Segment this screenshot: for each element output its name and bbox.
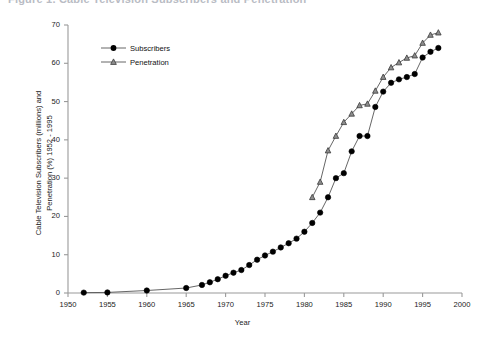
subscribers-point xyxy=(81,290,86,295)
subscribers-point xyxy=(357,133,362,138)
subscribers-point xyxy=(184,285,189,290)
subscribers-point xyxy=(278,245,283,250)
y-tick-label: 10 xyxy=(0,250,60,259)
legend-marker-subscribers xyxy=(111,45,117,51)
subscribers-point xyxy=(254,257,259,262)
x-axis-ticks xyxy=(68,293,462,297)
penetration-point xyxy=(396,60,402,65)
x-tick-label: 1995 xyxy=(407,300,439,309)
subscribers-point xyxy=(144,288,149,293)
subscribers-point xyxy=(215,277,220,282)
y-axis-title-line2: Penetration (%) 1952 - 1995 xyxy=(45,58,56,268)
legend-markers xyxy=(101,45,126,64)
subscribers-point xyxy=(412,71,417,76)
subscribers-point xyxy=(286,241,291,246)
subscribers-line xyxy=(84,48,439,293)
penetration-point xyxy=(365,101,371,106)
penetration-point xyxy=(317,179,323,184)
figure-container: Figure 1. Cable Television Subscribers a… xyxy=(0,0,485,340)
x-tick-label: 1965 xyxy=(170,300,202,309)
x-tick-label: 1980 xyxy=(288,300,320,309)
subscribers-point xyxy=(294,236,299,241)
y-tick-label: 20 xyxy=(0,211,60,220)
y-axis-title-line1: Cable Television Subscribers (millions) … xyxy=(34,58,45,268)
penetration-point xyxy=(310,194,316,199)
series-subscribers xyxy=(81,45,441,295)
subscribers-point xyxy=(349,149,354,154)
x-tick-label: 1955 xyxy=(91,300,123,309)
subscribers-point xyxy=(428,49,433,54)
x-tick-label: 1975 xyxy=(249,300,281,309)
subscribers-point xyxy=(365,133,370,138)
subscribers-point xyxy=(207,280,212,285)
x-tick-label: 1950 xyxy=(52,300,84,309)
x-tick-label: 2000 xyxy=(446,300,478,309)
penetration-point xyxy=(373,88,379,93)
subscribers-point xyxy=(270,249,275,254)
legend-label-penetration: Penetration xyxy=(130,58,169,67)
subscribers-point xyxy=(310,220,315,225)
x-tick-label: 1970 xyxy=(210,300,242,309)
subscribers-point xyxy=(333,175,338,180)
y-tick-label: 50 xyxy=(0,97,60,106)
penetration-point xyxy=(412,53,418,58)
subscribers-point xyxy=(373,104,378,109)
y-tick-label: 30 xyxy=(0,173,60,182)
subscribers-point xyxy=(381,89,386,94)
subscribers-point xyxy=(396,77,401,82)
subscribers-point xyxy=(420,55,425,60)
y-tick-label: 0 xyxy=(0,288,60,297)
y-tick-label: 60 xyxy=(0,58,60,67)
x-axis-title: Year xyxy=(0,318,485,327)
subscribers-point xyxy=(317,210,322,215)
subscribers-point xyxy=(231,270,236,275)
subscribers-point xyxy=(436,45,441,50)
line-chart xyxy=(0,0,485,340)
subscribers-point xyxy=(388,80,393,85)
subscribers-point xyxy=(223,273,228,278)
y-axis-title: Cable Television Subscribers (millions) … xyxy=(34,58,68,268)
x-tick-label: 1960 xyxy=(131,300,163,309)
x-tick-label: 1990 xyxy=(367,300,399,309)
subscribers-point xyxy=(302,229,307,234)
penetration-point xyxy=(436,30,442,35)
penetration-point xyxy=(388,64,394,69)
subscribers-point xyxy=(262,253,267,258)
y-tick-label: 40 xyxy=(0,135,60,144)
subscribers-point xyxy=(199,282,204,287)
subscribers-point xyxy=(341,170,346,175)
legend-label-subscribers: Subscribers xyxy=(130,44,170,53)
subscribers-point xyxy=(239,267,244,272)
penetration-point xyxy=(325,148,331,153)
y-tick-label: 70 xyxy=(0,20,60,29)
penetration-point xyxy=(333,133,339,138)
penetration-line xyxy=(312,33,438,198)
subscribers-point xyxy=(325,195,330,200)
subscribers-point xyxy=(247,262,252,267)
subscribers-point xyxy=(105,290,110,295)
x-tick-label: 1985 xyxy=(328,300,360,309)
subscribers-point xyxy=(404,74,409,79)
